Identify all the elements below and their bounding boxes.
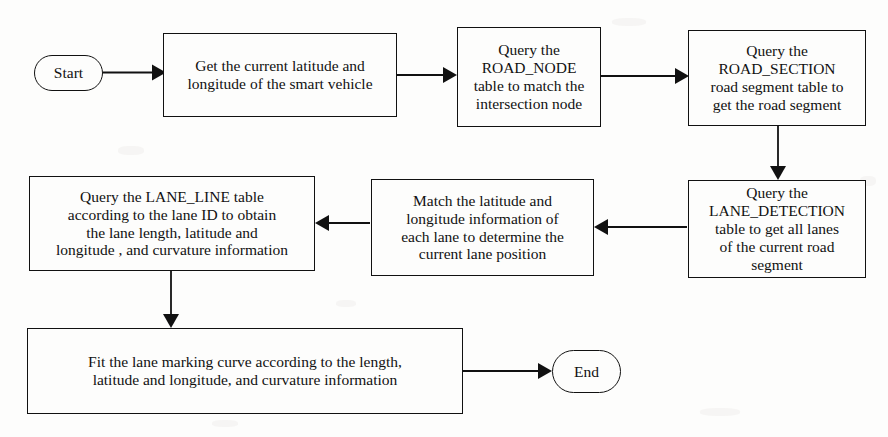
edge-get-position-to-road-node [397,67,457,83]
process-query-road-section[interactable]: Query the ROAD_SECTION road segment tabl… [688,30,866,126]
process-get-current-position[interactable]: Get the current latitude and longitude o… [163,33,397,117]
process-query-lane-line[interactable]: Query the LANE_LINE table according to t… [29,176,315,271]
flowchart-canvas: Start Get the current latitude and longi… [0,0,888,437]
scan-artifact [336,300,356,307]
scan-artifact [118,146,144,155]
end-terminator[interactable]: End [552,350,621,393]
process-fit-lane-marking-curve[interactable]: Fit the lane marking curve according to … [27,328,463,414]
edge-road-node-to-road-section [601,68,689,84]
scan-artifact [212,420,238,427]
edge-road-section-to-lane-detection [770,126,786,180]
edge-match-lane-to-lane-line [315,215,370,231]
process-query-lane-detection[interactable]: Query the LANE_DETECTION table to get al… [688,180,866,278]
process-query-road-node[interactable]: Query the ROAD_NODE table to match the i… [457,27,601,127]
edge-start-to-get-position [103,65,166,81]
edge-lane-line-to-fit-curve [163,271,179,328]
scan-artifact [612,18,646,26]
start-terminator[interactable]: Start [34,55,103,91]
process-match-lane-position[interactable]: Match the latitude and longitude informa… [371,179,594,276]
scan-artifact [700,408,740,416]
edge-fit-curve-to-end [463,363,552,379]
edge-lane-detection-to-match-lane [594,219,687,235]
